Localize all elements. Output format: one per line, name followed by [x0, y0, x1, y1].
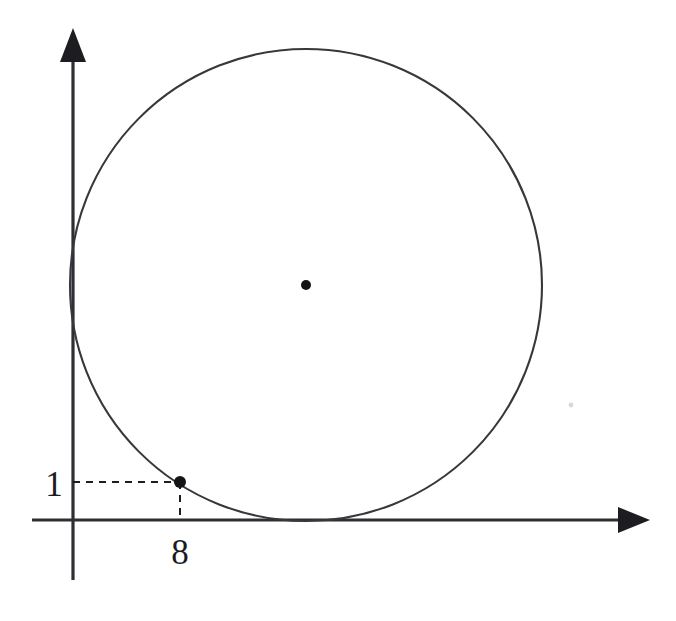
circle-center-dot — [301, 280, 311, 290]
point-on-circle-dot — [174, 476, 186, 488]
figure-canvas: 1 8 — [0, 0, 676, 621]
y-axis-tick-label: 1 — [45, 465, 63, 504]
x-axis-tick-label: 8 — [171, 533, 189, 572]
x-axis-arrow-icon — [618, 507, 650, 533]
scan-speck — [569, 403, 574, 408]
geometry-figure: 1 8 — [0, 0, 676, 621]
y-axis-arrow-icon — [60, 28, 86, 62]
